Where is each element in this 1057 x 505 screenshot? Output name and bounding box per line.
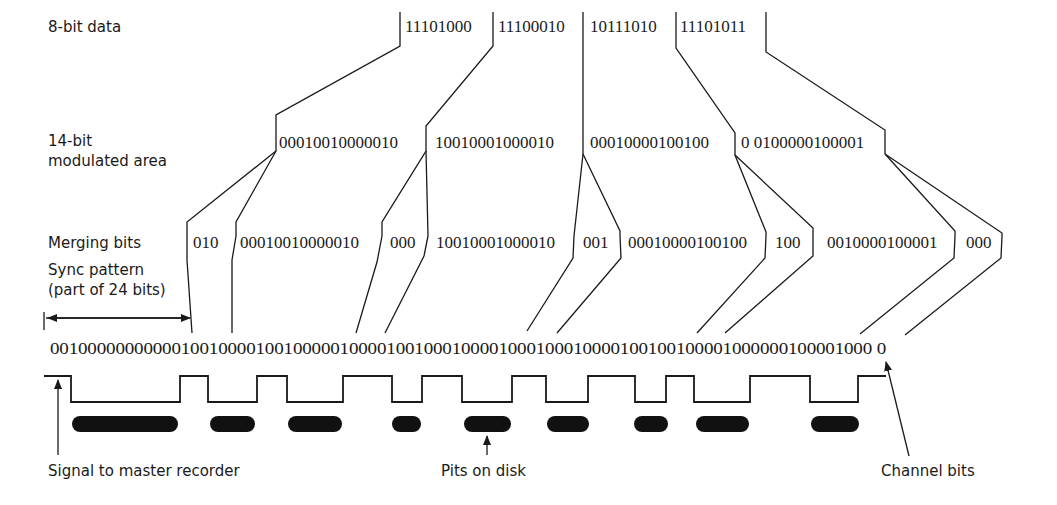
label-14bit-line2: modulated area xyxy=(48,152,167,170)
data8-value-1: 11101000 xyxy=(405,17,472,36)
channel-bits-string: 0010000000000010010000100100000100001001… xyxy=(50,339,886,358)
channel-bits-arrow xyxy=(886,362,909,456)
data14-value-3: 00010000100100 xyxy=(590,133,709,152)
efm-encoding-diagram: 8-bit data 14-bit modulated area Merging… xyxy=(0,0,1057,505)
data8-value-2: 11100010 xyxy=(498,17,565,36)
pit xyxy=(210,416,255,432)
label-sync-line2: (part of 24 bits) xyxy=(48,281,166,299)
merging-value-2: 00010010000010 xyxy=(240,233,359,252)
merging-value-8: 0010000100001 xyxy=(827,233,938,252)
pits-on-disk xyxy=(72,416,859,432)
signal-waveform xyxy=(44,376,886,402)
data8-value-4: 11101011 xyxy=(680,17,746,36)
merging-value-1: 010 xyxy=(193,233,219,252)
annotation-signal: Signal to master recorder xyxy=(48,462,240,480)
pit xyxy=(696,416,749,432)
pit xyxy=(547,416,589,432)
pit xyxy=(288,416,342,432)
label-merging-bits: Merging bits xyxy=(48,234,141,252)
pit xyxy=(811,416,859,432)
label-sync-line1: Sync pattern xyxy=(48,261,144,279)
pit xyxy=(392,416,421,432)
annotation-channel-bits: Channel bits xyxy=(881,462,975,480)
label-14bit-line1: 14-bit xyxy=(48,132,92,150)
data14-value-4: 0 0100000100001 xyxy=(741,133,864,152)
pit xyxy=(464,416,511,432)
merging-value-9: 000 xyxy=(966,233,992,252)
pit xyxy=(72,416,178,432)
label-8bit-data: 8-bit data xyxy=(48,18,121,36)
data14-value-1: 00010010000010 xyxy=(279,133,398,152)
merging-value-6: 00010000100100 xyxy=(628,233,747,252)
merging-value-7: 100 xyxy=(775,233,801,252)
data8-value-3: 10111010 xyxy=(590,17,657,36)
merging-value-3: 000 xyxy=(390,233,416,252)
data14-value-2: 10010001000010 xyxy=(435,133,554,152)
merging-value-5: 001 xyxy=(583,233,609,252)
annotation-pits: Pits on disk xyxy=(441,462,526,480)
pit xyxy=(634,416,668,432)
sync-pattern-arrow xyxy=(44,312,190,330)
merging-value-4: 10010001000010 xyxy=(436,233,555,252)
